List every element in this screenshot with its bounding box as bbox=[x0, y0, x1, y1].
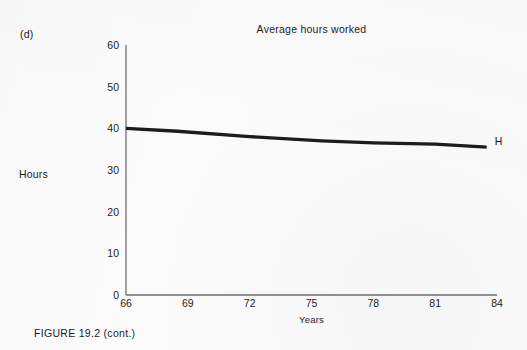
x-tick-label: 84 bbox=[491, 297, 503, 309]
y-tick-label: 10 bbox=[107, 247, 119, 259]
y-tick-label: 50 bbox=[107, 81, 119, 93]
data-line-series bbox=[126, 128, 487, 147]
y-axis-tick-labels: 0102030405060 bbox=[107, 39, 119, 301]
figure-caption: FIGURE 19.2 (cont.) bbox=[34, 327, 135, 339]
x-tick-label: 69 bbox=[182, 297, 194, 309]
x-axis-tick-labels: 66697275788184 bbox=[120, 297, 503, 309]
x-tick-label: 75 bbox=[306, 297, 318, 309]
y-tick-label: 40 bbox=[107, 122, 119, 134]
x-tick-label: 78 bbox=[367, 297, 379, 309]
y-tick-label: 0 bbox=[113, 289, 119, 301]
y-tick-label: 20 bbox=[107, 206, 119, 218]
y-tick-label: 60 bbox=[107, 39, 119, 51]
y-tick-label: 30 bbox=[107, 164, 119, 176]
x-tick-label: 72 bbox=[244, 297, 256, 309]
figure-canvas: (d) Average hours worked Hours Years 010… bbox=[0, 0, 527, 350]
x-tick-label: 81 bbox=[429, 297, 441, 309]
series-end-label: H bbox=[495, 135, 503, 147]
data-series-layer bbox=[126, 128, 487, 147]
x-tick-label: 66 bbox=[120, 297, 132, 309]
line-chart-plot: 0102030405060 66697275788184 H bbox=[0, 0, 527, 350]
series-end-labels: H bbox=[495, 135, 503, 147]
